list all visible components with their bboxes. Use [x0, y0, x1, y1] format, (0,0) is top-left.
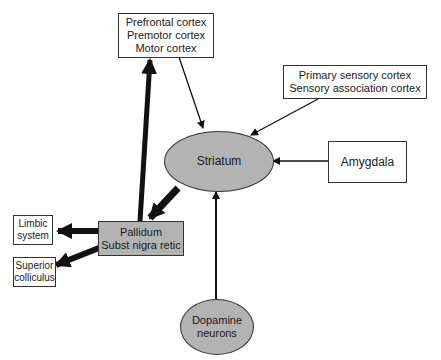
node-striatum: Striatum — [164, 131, 274, 192]
node-label-line: Pallidum — [120, 226, 162, 239]
node-label-line: Limbic — [19, 218, 48, 230]
node-label-line: Primary sensory cortex — [299, 69, 411, 82]
node-dopamine-neurons: Dopamine neurons — [180, 299, 254, 355]
arrow-pallidum-to-colliculus — [56, 248, 99, 265]
node-label-line: colliculus — [14, 272, 55, 284]
node-amygdala: Amygdala — [328, 141, 407, 183]
node-label-line: neurons — [197, 327, 237, 340]
node-label-line: Motor cortex — [135, 42, 196, 55]
node-label-line: system — [17, 230, 49, 242]
node-label-line: Prefrontal cortex — [126, 16, 207, 29]
node-sensory-cortex: Primary sensory cortex Sensory associati… — [283, 65, 427, 99]
node-label: Striatum — [197, 155, 242, 168]
arrow-striatum-to-pallidum — [150, 188, 178, 218]
arrow-frontal-to-striatum — [179, 57, 203, 128]
node-pallidum-subst-nigra-retic: Pallidum Subst nigra retic — [98, 221, 184, 256]
node-superior-colliculus: Superior colliculus — [13, 257, 56, 287]
arrow-sensory-to-striatum — [251, 99, 318, 135]
node-label-line: Premotor cortex — [127, 29, 205, 42]
arrow-pallidum-to-frontal — [140, 60, 150, 221]
node-label-line: Sensory association cortex — [289, 82, 420, 95]
node-label-line: Subst nigra retic — [101, 239, 180, 252]
node-label: Amygdala — [341, 156, 394, 169]
node-label-line: Dopamine — [192, 314, 242, 327]
node-prefrontal-premotor-motor-cortex: Prefrontal cortex Premotor cortex Motor … — [118, 13, 214, 58]
node-label-line: Superior — [16, 260, 54, 272]
node-limbic-system: Limbic system — [13, 215, 53, 245]
